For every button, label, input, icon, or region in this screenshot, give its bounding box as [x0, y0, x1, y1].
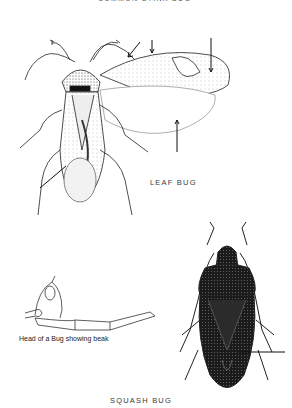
- squash-bug-antenna-left: [207, 222, 214, 245]
- squash-bug-figure: [180, 222, 285, 388]
- bug-head-figure: [25, 276, 155, 330]
- squash-bug-pronotum: [199, 264, 255, 295]
- squash-bug-antenna-right: [242, 222, 247, 245]
- illustration-canvas: [0, 0, 292, 408]
- bug-head-caption: Head of a Bug showing beak: [19, 335, 109, 342]
- leaf-bug-caption: LEAF BUG: [150, 178, 197, 187]
- leaf-bug-hindwing: [100, 86, 215, 133]
- squash-bug-caption: SQUASH BUG: [110, 396, 172, 405]
- leaf-bug-leg: [20, 110, 62, 148]
- leaf-bug-figure: [20, 38, 230, 215]
